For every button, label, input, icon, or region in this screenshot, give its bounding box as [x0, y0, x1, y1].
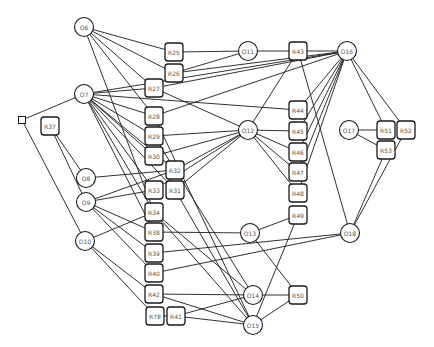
node-label: O6 — [80, 24, 89, 31]
edge-r53-o18 — [350, 150, 386, 233]
node-label: R51 — [380, 127, 392, 134]
node-label: O17 — [343, 127, 356, 134]
node-label: O9 — [82, 199, 91, 206]
node-label: R27 — [148, 85, 160, 92]
edge-o6-r25 — [84, 27, 174, 52]
rect-node-r41[interactable]: R41 — [167, 307, 185, 325]
node-label: R48 — [292, 190, 304, 197]
rect-node-r45[interactable]: R45 — [289, 122, 307, 140]
rect-node-r51[interactable]: R51 — [377, 121, 395, 139]
rect-node-r46[interactable]: R46 — [289, 143, 307, 161]
node-label: R46 — [292, 149, 304, 156]
node-label: R33 — [148, 187, 160, 194]
rect-node-r32[interactable]: R32 — [166, 161, 184, 179]
edge-r26-o16 — [174, 51, 347, 73]
rect-node-r42[interactable]: R42 — [145, 285, 163, 303]
circle-node-o10[interactable]: O10 — [76, 232, 95, 251]
node-label: O10 — [79, 238, 92, 245]
node-label: O18 — [344, 230, 357, 237]
rect-node-r26[interactable]: R26 — [165, 64, 183, 82]
node-label: O14 — [247, 292, 260, 299]
rect-node-r49[interactable]: R49 — [289, 206, 307, 224]
node-label: O16 — [341, 48, 354, 55]
edge-o10-r42 — [85, 241, 154, 294]
node-label: R40 — [148, 270, 160, 277]
circle-node-o12[interactable]: O12 — [239, 121, 258, 140]
edge-o6-r34 — [84, 27, 154, 212]
node-label: R31 — [169, 187, 181, 194]
edge-r37-o9 — [50, 126, 86, 202]
circle-node-o13[interactable]: O13 — [241, 224, 260, 243]
node-label: R38 — [148, 229, 160, 236]
edge-r26-o11 — [174, 51, 248, 73]
rect-node-r25[interactable]: R25 — [165, 43, 183, 61]
edge-r25-o11 — [174, 51, 248, 52]
edge-r32-o12 — [175, 130, 248, 170]
edge-o7-r34 — [84, 94, 154, 212]
node-label: O15 — [247, 322, 260, 329]
rect-node-r37[interactable]: R37 — [41, 117, 59, 135]
rect-node-r39[interactable]: R39 — [145, 244, 163, 262]
small-junction-node[interactable] — [19, 117, 26, 124]
circle-node-o14[interactable]: O14 — [244, 286, 263, 305]
node-label: R32 — [169, 167, 181, 174]
rect-node-r48[interactable]: R48 — [289, 184, 307, 202]
rect-node-r38[interactable]: R38 — [145, 223, 163, 241]
edge-o9-r33 — [86, 190, 154, 202]
node-label: R25 — [168, 49, 180, 56]
edge-r28-o15 — [154, 116, 253, 325]
rect-node-r30[interactable]: R30 — [145, 147, 163, 165]
edge-o16-r51 — [347, 51, 386, 130]
edge-r29-o14 — [154, 136, 253, 295]
circle-node-o8[interactable]: O8 — [77, 169, 96, 188]
node-label: R37 — [44, 123, 56, 130]
circle-node-o9[interactable]: O9 — [77, 193, 96, 212]
rect-node-r47[interactable]: R47 — [289, 163, 307, 181]
edge-r41-o15 — [176, 316, 253, 325]
node-label: R29 — [148, 133, 160, 140]
circle-node-o7[interactable]: O7 — [75, 85, 94, 104]
rect-node-r50[interactable]: R50 — [289, 286, 307, 304]
network-diagram: O6O7O8O9O10O11O12O13O14O15O16O17O18R25R2… — [0, 0, 434, 347]
node-label: R39 — [148, 250, 160, 257]
circle-node-o11[interactable]: O11 — [239, 42, 258, 61]
circle-node-o17[interactable]: O17 — [340, 121, 359, 140]
node-label: R28 — [148, 113, 160, 120]
node-label: R52 — [400, 127, 412, 134]
circle-node-o16[interactable]: O16 — [338, 42, 357, 61]
node-label: R45 — [292, 128, 304, 135]
rect-node-r29[interactable]: R29 — [145, 127, 163, 145]
edge-r38-o13 — [154, 232, 250, 233]
rect-node-r43[interactable]: R43 — [289, 42, 307, 60]
node-label: O11 — [242, 48, 255, 55]
node-label: R30 — [148, 153, 160, 160]
circle-node-o18[interactable]: O18 — [341, 224, 360, 243]
edge-o16-r52 — [347, 51, 406, 130]
node-label: R43 — [292, 48, 304, 55]
edge-o7-s0 — [22, 94, 84, 120]
edge-o8-r32 — [86, 170, 175, 178]
node-label: R49 — [292, 212, 304, 219]
rect-node-r44[interactable]: R44 — [289, 101, 307, 119]
rect-node-r28[interactable]: R28 — [145, 107, 163, 125]
rect-node-r40[interactable]: R40 — [145, 264, 163, 282]
circle-node-o6[interactable]: O6 — [75, 18, 94, 37]
edge-r29-o12 — [154, 130, 248, 136]
edge-r34-o14 — [154, 212, 253, 295]
node-label: R26 — [168, 70, 180, 77]
rect-node-r52[interactable]: R52 — [397, 121, 415, 139]
edge-r30-o12 — [154, 130, 248, 156]
rect-node-r34[interactable]: R34 — [145, 203, 163, 221]
node-label: O12 — [242, 127, 255, 134]
node-label: R34 — [148, 209, 160, 216]
rect-node-r78[interactable]: R78 — [146, 307, 164, 325]
edge-r31-o12 — [175, 130, 248, 190]
rect-node-r53[interactable]: R53 — [377, 141, 395, 159]
node-label: O13 — [244, 230, 257, 237]
node-label: R42 — [148, 291, 160, 298]
node-label: R50 — [292, 292, 304, 299]
rect-node-r31[interactable]: R31 — [166, 181, 184, 199]
circle-node-o15[interactable]: O15 — [244, 316, 263, 335]
rect-node-r33[interactable]: R33 — [145, 181, 163, 199]
rect-node-r27[interactable]: R27 — [145, 79, 163, 97]
